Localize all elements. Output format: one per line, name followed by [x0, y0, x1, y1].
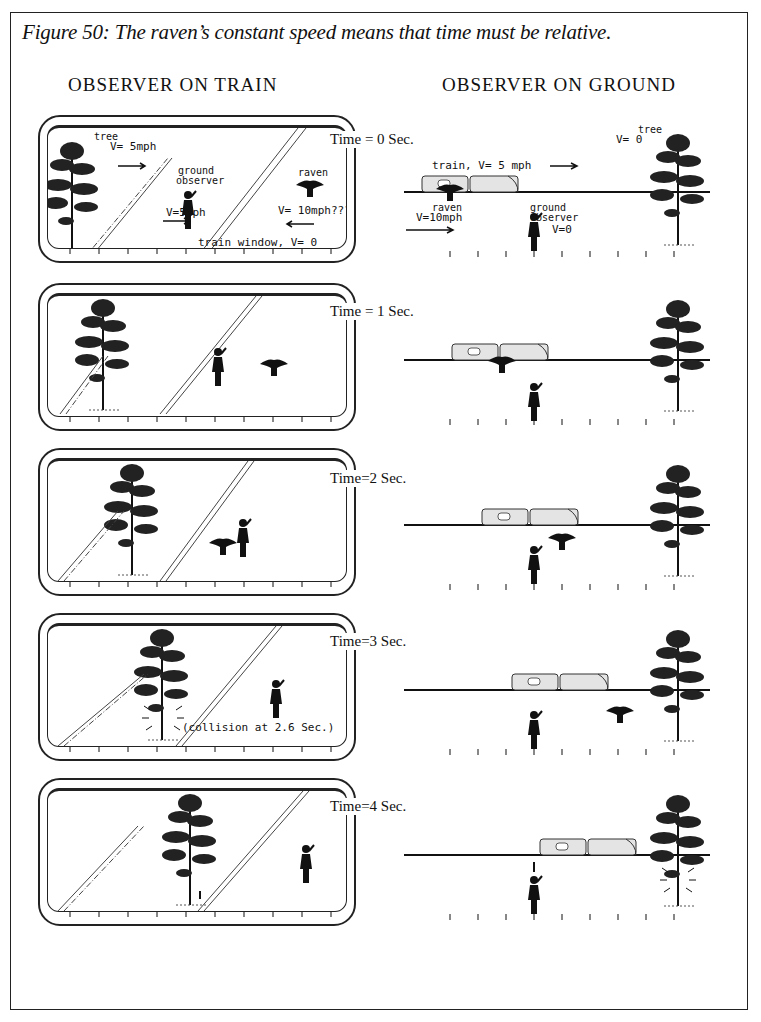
time-label: Time=3 Sec. — [328, 633, 408, 650]
figure-caption: Figure 50: The raven’s constant speed me… — [22, 20, 611, 45]
label-tree-ground-velocity: V= 0 — [616, 135, 643, 145]
window-scale-ticks — [70, 249, 340, 257]
column-heading-ground: OBSERVER ON GROUND — [442, 74, 676, 96]
train-window-pane — [47, 458, 347, 582]
train-view-scene — [48, 461, 347, 582]
train-view-scene — [48, 296, 347, 417]
window-scale-ticks — [70, 417, 340, 425]
window-scale-ticks — [70, 912, 340, 920]
train-window — [38, 448, 356, 596]
label-train: train, V= 5 mph — [432, 161, 531, 171]
label-raven: raven — [298, 168, 328, 178]
train-window — [38, 283, 356, 431]
label-tree-velocity: V= 5mph — [110, 142, 156, 152]
train-view-scene — [48, 791, 347, 912]
label-ground-observer-ground: ground observer — [530, 203, 590, 223]
train-view-scene — [48, 128, 347, 249]
window-scale-ticks — [70, 582, 340, 590]
ground-view-scene — [400, 448, 720, 598]
time-label: Time=2 Sec. — [328, 470, 408, 487]
label-train-window: train window, V= 0 — [198, 238, 317, 248]
ground-view-scene — [400, 778, 720, 928]
label-ground-observer: ground observer — [176, 166, 216, 186]
train-window — [38, 778, 356, 926]
train-window-pane — [47, 788, 347, 912]
panel-row-2: Time=2 Sec. — [0, 448, 761, 598]
label-ground-observer-velocity: V=5mph — [166, 208, 206, 218]
train-window: (collision at 2.6 Sec.) — [38, 613, 356, 761]
panel-row-0: tree V= 5mph ground observer V=5mph rave… — [0, 115, 761, 265]
window-scale-ticks — [70, 747, 340, 755]
label-raven-ground-velocity: V=10mph — [416, 213, 462, 223]
panel-row-4: Time=4 Sec. — [0, 778, 761, 928]
train-window: tree V= 5mph ground observer V=5mph rave… — [38, 115, 356, 263]
ground-view-scene — [400, 283, 720, 433]
ground-view-scene — [400, 115, 720, 265]
train-window-pane — [47, 293, 347, 417]
column-heading-train: OBSERVER ON TRAIN — [68, 74, 277, 96]
panel-row-1: Time = 1 Sec. — [0, 283, 761, 433]
label-collision: (collision at 2.6 Sec.) — [182, 723, 334, 733]
train-window-pane: (collision at 2.6 Sec.) — [47, 623, 347, 747]
time-label: Time=4 Sec. — [328, 798, 408, 815]
panel-row-3: (collision at 2.6 Sec.) Time=3 Sec. — [0, 613, 761, 763]
label-ground-observer-ground-velocity: V=0 — [552, 225, 572, 235]
train-window-pane: tree V= 5mph ground observer V=5mph rave… — [47, 125, 347, 249]
ground-view-scene — [400, 613, 720, 763]
label-raven-velocity: V= 10mph??? — [278, 206, 347, 216]
